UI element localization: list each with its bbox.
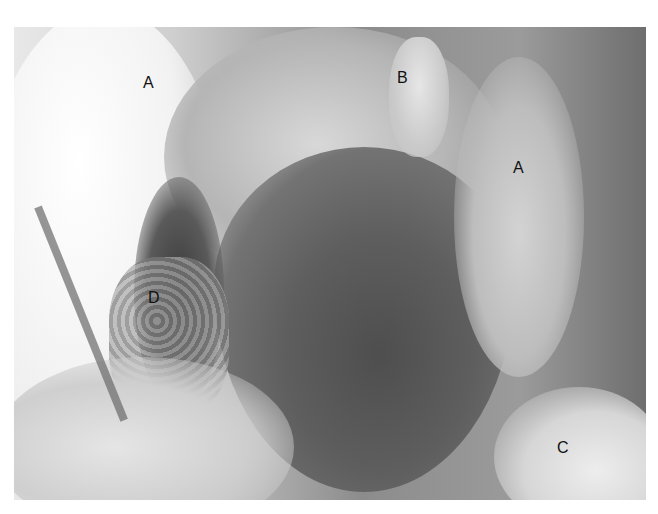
label-b: B (397, 70, 408, 86)
label-a-right: A (513, 160, 524, 176)
structure-b (389, 37, 449, 157)
endoscopic-photo (14, 27, 646, 500)
label-d: D (148, 290, 160, 306)
right-bright-wall (454, 57, 584, 377)
label-a-left: A (143, 75, 154, 91)
label-c: C (557, 440, 569, 456)
